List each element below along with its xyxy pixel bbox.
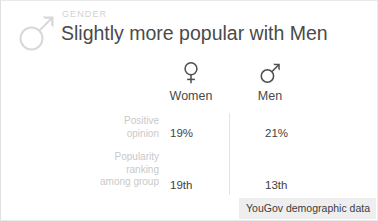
row-label-line: among group xyxy=(39,176,159,189)
gender-demographic-card: GENDER Slightly more popular with Men Wo… xyxy=(0,0,378,221)
mars-symbol-icon xyxy=(15,13,57,55)
venus-symbol-icon xyxy=(146,60,236,86)
page-title: Slightly more popular with Men xyxy=(61,20,328,46)
row-label-positive-opinion: Positive opinion xyxy=(39,115,159,140)
value-positive-opinion-women: 19% xyxy=(170,126,230,140)
value-popularity-ranking-men: 13th xyxy=(265,178,325,192)
mars-symbol-icon xyxy=(225,60,315,86)
row-label-line: opinion xyxy=(39,128,159,141)
row-label-line: ranking xyxy=(39,164,159,177)
row-label-line: Popularity xyxy=(39,151,159,164)
column-label-women: Women xyxy=(146,88,236,104)
row-label-line: Positive xyxy=(39,115,159,128)
card-header: GENDER Slightly more popular with Men xyxy=(1,1,378,59)
column-header-men: Men xyxy=(225,60,315,104)
column-label-men: Men xyxy=(225,88,315,104)
card-eyebrow-label: GENDER xyxy=(62,9,107,20)
column-header-women: Women xyxy=(146,60,236,104)
row-label-popularity-ranking: Popularity ranking among group xyxy=(39,151,159,189)
value-popularity-ranking-women: 19th xyxy=(170,178,230,192)
value-positive-opinion-men: 21% xyxy=(265,126,325,140)
source-badge: YouGov demographic data xyxy=(239,198,376,219)
